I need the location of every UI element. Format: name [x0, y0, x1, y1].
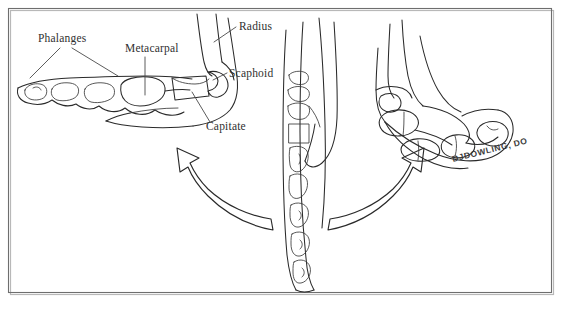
signature-text: DJDOWLING, DO	[451, 136, 528, 164]
figure-canvas: Phalanges Metacarpal Radius Scaphoid Cap…	[0, 0, 566, 311]
label-capitate: Capitate	[206, 120, 246, 133]
label-metacarpal: Metacarpal	[125, 42, 179, 55]
curved-arrow-left	[177, 148, 273, 230]
label-radius: Radius	[239, 20, 272, 32]
curved-arrow-right	[328, 148, 424, 230]
label-phalanges: Phalanges	[38, 32, 87, 45]
anatomy-figure: Phalanges Metacarpal Radius Scaphoid Cap…	[0, 0, 566, 311]
artist-signature: DJDOWLING, DO	[451, 136, 528, 164]
label-scaphoid: Scaphoid	[229, 67, 273, 80]
center-forearm-drawing	[283, 18, 337, 292]
